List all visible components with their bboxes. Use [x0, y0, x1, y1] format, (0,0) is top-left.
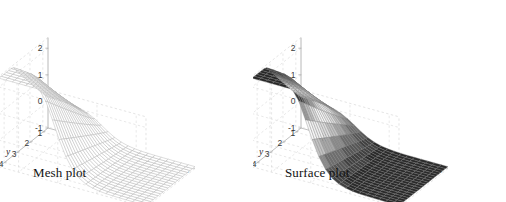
caption-surface-plot: Surface plot: [285, 165, 349, 181]
y-tick-label: 2: [278, 138, 283, 148]
caption-mesh-plot: Mesh plot: [33, 165, 86, 181]
y-tick-label: 3: [12, 149, 17, 159]
z-tick-label: 0: [291, 96, 296, 106]
y-tick-label: 4: [0, 159, 4, 169]
y-axis-label: y: [5, 147, 11, 157]
panel-mesh-plot: -1012z1234y-2024x Mesh plot: [0, 0, 253, 202]
surface-faces: [253, 68, 448, 202]
y-tick-label: 1: [290, 128, 295, 138]
y-tick-label: 2: [25, 138, 30, 148]
z-tick-label: 0: [38, 96, 43, 106]
panel-surface-plot: -1012z1234y-2024x Surface plot: [253, 0, 506, 202]
y-tick-label: 1: [37, 128, 42, 138]
y-tick-label: 3: [265, 149, 270, 159]
z-tick-label: 2: [38, 43, 43, 53]
figure-two-3d-plots: -1012z1234y-2024x Mesh plot -1012z1234y-…: [0, 0, 506, 202]
mesh-wireframe: [0, 68, 195, 202]
z-tick-label: 2: [291, 43, 296, 53]
y-axis-label: y: [258, 147, 264, 157]
y-tick-label: 4: [253, 159, 257, 169]
